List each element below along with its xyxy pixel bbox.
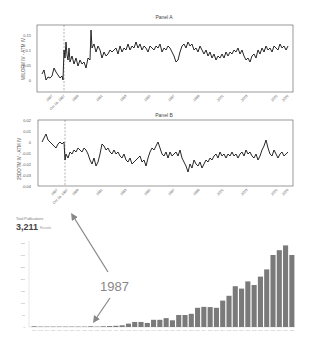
bar-xtick: 1998: [164, 329, 169, 331]
bar: [195, 308, 200, 327]
bar: [289, 255, 294, 327]
publications-bar-chart: 0501001502002503003501977197819791980198…: [0, 0, 309, 347]
bar: [32, 326, 37, 327]
bar: [101, 326, 106, 327]
bar-xtick: 1983: [70, 329, 75, 331]
bar: [107, 326, 112, 327]
bar: [126, 324, 131, 327]
bar-ytick: 200: [21, 278, 26, 281]
bar: [270, 255, 275, 327]
bar-xtick: 1994: [139, 329, 144, 331]
bar: [189, 314, 194, 327]
bar-xtick: 1992: [126, 329, 131, 331]
bar: [164, 318, 169, 327]
bar-xtick: 2003: [195, 329, 200, 331]
bar: [233, 286, 238, 327]
annotation-1987: 1987: [100, 279, 129, 294]
bar-xtick: 1989: [107, 329, 112, 331]
bar-ytick: 100: [21, 302, 26, 305]
bar: [176, 315, 181, 327]
bar: [283, 245, 288, 327]
bar: [88, 326, 93, 327]
bar-ytick: 350: [21, 242, 26, 245]
bar: [245, 281, 250, 327]
bar-xtick: 2015: [271, 329, 276, 331]
bar: [264, 269, 269, 327]
bar-xtick: 1999: [170, 329, 175, 331]
bar-ytick: 0: [24, 326, 26, 329]
bar: [239, 289, 244, 327]
bar: [170, 320, 175, 327]
bar: [220, 301, 225, 327]
bar-xtick: 2002: [189, 329, 194, 331]
bar-xtick: 2006: [214, 329, 219, 331]
bar-xtick: 1979: [44, 329, 49, 331]
bar-xtick: 1977: [32, 329, 37, 331]
bar-xtick: 1997: [158, 329, 163, 331]
bar: [252, 285, 257, 327]
bar: [277, 250, 282, 327]
bar: [226, 296, 231, 327]
bar-xtick: 1986: [88, 329, 93, 331]
bar-xtick: 2011: [246, 329, 251, 331]
bar-ytick: 50: [22, 314, 25, 317]
bar: [258, 277, 263, 327]
bar: [201, 307, 206, 327]
bar-xtick: 2001: [183, 329, 188, 331]
bar-xtick: 2013: [258, 329, 263, 331]
bar: [151, 320, 156, 327]
bar-ytick: 250: [21, 266, 26, 269]
bar-xtick: 1978: [38, 329, 43, 331]
bar-xtick: 2009: [233, 329, 238, 331]
bar-xtick: 2014: [264, 329, 269, 331]
bar-xtick: 1985: [82, 329, 87, 331]
bar-xtick: 1991: [120, 329, 125, 331]
bar-xtick: 2018: [290, 329, 295, 331]
bar: [145, 323, 150, 327]
bar-xtick: 2017: [283, 329, 288, 331]
bar: [132, 322, 137, 327]
bar: [208, 307, 213, 327]
bar-xtick: 1981: [57, 329, 62, 331]
bar-xtick: 2012: [252, 329, 257, 331]
bar-xtick: 2008: [227, 329, 232, 331]
bar-xtick: 1988: [101, 329, 106, 331]
bar-xtick: 1990: [114, 329, 119, 331]
bar: [113, 326, 118, 327]
bar-ytick: 150: [21, 290, 26, 293]
bar-xtick: 2016: [277, 329, 282, 331]
bar-xtick: 2004: [202, 329, 207, 331]
bar-xtick: 2000: [176, 329, 181, 331]
bar: [138, 322, 143, 327]
bar-xtick: 1984: [76, 329, 81, 331]
bar-xtick: 1995: [145, 329, 150, 331]
bar-xtick: 1996: [151, 329, 156, 331]
bar-xtick: 2007: [220, 329, 225, 331]
bar-xtick: 1980: [51, 329, 56, 331]
bar-xtick: 2010: [239, 329, 244, 331]
bar: [157, 320, 162, 327]
bar: [214, 308, 219, 327]
bar: [182, 315, 187, 327]
bar-xtick: 1993: [132, 329, 137, 331]
bar-xtick: 1987: [95, 329, 100, 331]
bar-xtick: 1982: [63, 329, 68, 331]
bar: [120, 325, 125, 327]
bar-xtick: 2005: [208, 329, 213, 331]
bar-ytick: 300: [21, 254, 26, 257]
